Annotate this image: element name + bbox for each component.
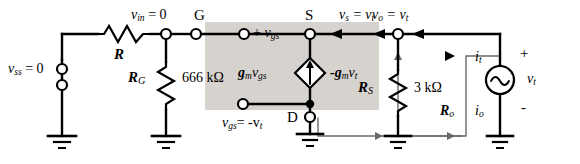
label-neg-gm-vt: -gmvt [330,66,357,82]
label-resistor-RG: RG [128,70,145,86]
label-current-io: io [475,104,484,120]
label-gm-vgs: gmvgs [238,66,267,82]
label-vgs-polarity: + vgs - [253,26,287,42]
label-resistance-Ro: Ro [440,104,454,120]
circuit-diagram: vss = 0 R vin = 0 G RG 666 kΩ + vgs - S … [0,0,580,164]
circuit-wiring-layer [0,0,580,164]
label-vin: vin = 0 [131,8,167,24]
label-RS-value: 3 kΩ [414,81,442,95]
label-vss: vss = 0 [8,62,44,78]
label-RG-value: 666 kΩ [182,71,224,85]
label-vs: vs = vt [339,8,374,24]
label-vo: vo = vt [372,8,408,24]
label-node-G: G [194,8,205,23]
label-node-D: D [287,110,298,125]
label-polarity-plus: + [520,46,528,61]
label-vgs-value: vgs= -vt [222,116,262,132]
label-source-vt: vt [527,72,536,88]
label-polarity-minus: - [521,100,526,115]
label-resistor-RS: RS [358,80,373,96]
label-node-S: S [305,8,313,23]
label-current-it: it [475,50,482,66]
label-resistor-R: R [114,47,124,62]
